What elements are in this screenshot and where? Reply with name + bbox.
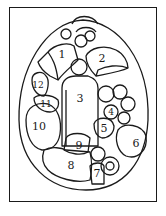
label-12: 12 <box>32 81 43 90</box>
platter-outline <box>19 20 148 190</box>
object-3 <box>62 76 98 146</box>
label-8: 8 <box>68 160 75 171</box>
still-life-outline <box>0 0 166 216</box>
label-11: 11 <box>40 100 51 109</box>
label-1: 1 <box>59 49 66 60</box>
label-2: 2 <box>99 53 106 64</box>
object-2 <box>86 47 128 76</box>
label-3: 3 <box>77 93 84 104</box>
object-6 <box>116 125 146 157</box>
label-7: 7 <box>94 168 101 179</box>
label-9: 9 <box>76 140 83 151</box>
label-10: 10 <box>32 121 46 132</box>
label-5: 5 <box>101 123 108 134</box>
label-6: 6 <box>133 138 140 149</box>
label-4: 4 <box>108 108 114 117</box>
